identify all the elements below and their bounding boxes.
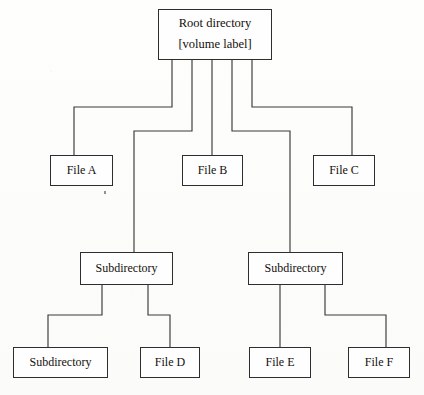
subdirectory-right-label: Subdirectory	[265, 261, 327, 276]
node-subdirectory-bottom: Subdirectory	[13, 347, 108, 378]
edge-root-to-file-c	[252, 60, 352, 155]
file-f-label: File F	[365, 355, 393, 370]
edge-subdir-left-to-subdir-bottom	[48, 285, 102, 347]
node-file-b: File B	[182, 155, 243, 186]
root-volume-label: [volume label]	[178, 37, 251, 53]
file-e-label: File E	[266, 355, 295, 370]
edge-subdir-right-to-file-f	[325, 285, 386, 347]
edge-root-to-file-a	[74, 60, 172, 155]
node-file-f: File F	[348, 347, 410, 378]
edge-subdir-left-to-file-d	[148, 285, 170, 347]
file-d-label: File D	[155, 355, 185, 370]
node-subdirectory-right: Subdirectory	[248, 252, 343, 285]
node-file-a: File A	[50, 155, 113, 186]
file-a-label: File A	[67, 163, 97, 178]
node-file-e: File E	[249, 347, 311, 378]
subdirectory-bottom-label: Subdirectory	[30, 355, 92, 370]
node-root-directory: Root directory [volume label]	[158, 9, 272, 60]
file-b-label: File B	[198, 163, 228, 178]
subdirectory-left-label: Subdirectory	[96, 261, 158, 276]
scan-speck-artifact	[104, 191, 106, 194]
root-directory-label: Root directory	[179, 16, 252, 32]
file-c-label: File C	[329, 163, 359, 178]
node-file-d: File D	[140, 347, 200, 378]
node-subdirectory-left: Subdirectory	[80, 252, 173, 285]
diagram-canvas: Root directory [volume label] File A Fil…	[0, 0, 424, 395]
node-file-c: File C	[313, 155, 375, 186]
